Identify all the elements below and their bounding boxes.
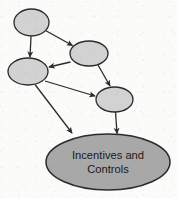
outcome-node-label-line-2: Controls [87,163,129,175]
upper-right-node[interactable] [70,41,108,66]
mid-left-node[interactable] [8,58,48,85]
diagram-canvas: Incentives and Controls [0,0,177,198]
edge-mid-left-to-outcome [35,85,72,134]
edge-upper-right-to-mid-right [98,65,110,86]
flow-diagram: Incentives and Controls [0,0,177,198]
upper-left-node[interactable] [14,9,49,36]
outcome-node-label-line-1: Incentives and [72,149,144,161]
edge-upper-left-to-upper-right [46,31,73,46]
nodes-layer: Incentives and Controls [8,9,170,190]
mid-right-node[interactable] [96,87,133,112]
incentives-and-controls-node[interactable]: Incentives and Controls [46,134,170,190]
edge-upper-left-to-mid-left [30,37,31,58]
edge-mid-left-to-mid-right [45,81,95,96]
edge-upper-right-to-mid-left [49,62,71,67]
edge-mid-right-to-outcome [116,112,118,134]
